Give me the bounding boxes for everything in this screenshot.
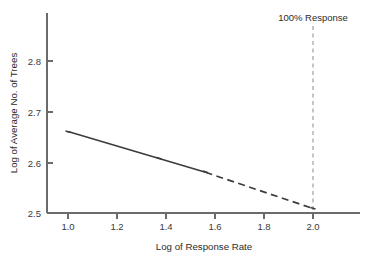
x-tick-label-1-4: 1.4 — [159, 221, 172, 232]
y-tick-label-2-5: 2.5 — [28, 208, 41, 219]
y-tick-label-2-6: 2.6 — [28, 158, 41, 169]
y-axis-ticks — [47, 61, 53, 213]
y-tick-label-2-8: 2.8 — [28, 56, 41, 67]
observed-fit-line — [68, 132, 206, 173]
x-tick-label-2-0: 2.0 — [306, 221, 319, 232]
x-tick-label-1-8: 1.8 — [257, 221, 270, 232]
chart-container: 2.8 2.7 2.6 2.5 1.0 1.2 1.4 1.6 1.8 2.0 … — [0, 0, 379, 259]
x-axis-title: Log of Response Rate — [156, 241, 252, 252]
x-axis-ticks — [68, 213, 313, 219]
y-tick-label-2-7: 2.7 — [28, 107, 41, 118]
x-tick-label-1-6: 1.6 — [208, 221, 221, 232]
data-point-2-0 — [311, 208, 316, 210]
extrapolated-fit-line — [206, 172, 314, 208]
x-tick-label-1-0: 1.0 — [61, 221, 74, 232]
y-axis-title: Log of Average No. of Trees — [8, 53, 19, 174]
regression-line-chart: 2.8 2.7 2.6 2.5 1.0 1.2 1.4 1.6 1.8 2.0 … — [0, 0, 379, 259]
x-tick-label-1-2: 1.2 — [110, 221, 123, 232]
full-response-annotation-label: 100% Response — [278, 12, 348, 23]
